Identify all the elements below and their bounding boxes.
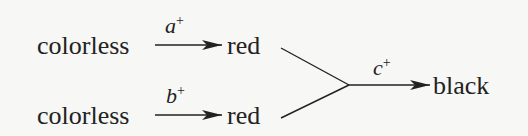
merge-line-bottom	[281, 85, 349, 118]
node-red-top: red	[227, 33, 260, 59]
node-colorless-bottom: colorless	[37, 103, 129, 129]
node-red-bottom: red	[227, 103, 260, 129]
merge-line-top	[281, 48, 349, 85]
label-a-plus: a+	[165, 14, 184, 37]
node-black: black	[433, 73, 489, 99]
label-b-plus: b+	[166, 84, 185, 107]
node-colorless-top: colorless	[37, 33, 129, 59]
label-c-plus: c+	[373, 56, 391, 79]
